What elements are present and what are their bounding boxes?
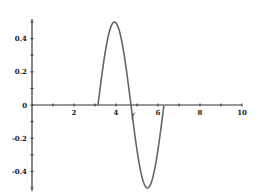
x-tick-label: 6 bbox=[156, 108, 161, 117]
y-tick-label: -0.4 bbox=[12, 167, 27, 176]
y-tick-label: 0.4 bbox=[15, 34, 27, 43]
axes bbox=[31, 19, 243, 191]
y-tick-label: -0.2 bbox=[12, 134, 27, 143]
y-tick-label: 0.2 bbox=[15, 67, 27, 76]
x-tick-label: 4 bbox=[114, 108, 119, 117]
y-tick-label: 0 bbox=[22, 101, 27, 110]
x-tick-label: 10 bbox=[237, 108, 247, 117]
chart: 2468100.40.20-0.2-0.4 f bbox=[0, 0, 260, 194]
function-label: f bbox=[131, 112, 136, 120]
x-tick-label: 8 bbox=[198, 108, 203, 117]
x-tick-label: 2 bbox=[72, 108, 77, 117]
